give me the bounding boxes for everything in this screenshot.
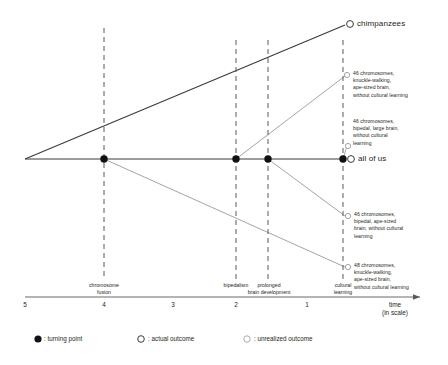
axis-tick-1: 1 [297, 301, 317, 308]
outcome-label-unrealized-bipedal-apesized: 46 chromosomes, bipedal, ape-sized brain… [354, 211, 446, 240]
turning-point-cultural-learning [339, 155, 346, 162]
turning-point-bipedalism [232, 155, 239, 162]
axis-tick-5: 5 [15, 301, 35, 308]
outcome-marker-unrealized-bipedal-apesized [345, 213, 350, 218]
turning-point-prolonged-brain-development [264, 155, 271, 162]
legend-label-turning-point: : turning point [44, 335, 82, 342]
legend-marker-actual-outcome [138, 336, 145, 343]
event-label-cultural-learning: cultural learning [320, 282, 366, 295]
outcome-marker-unrealized-large-brain [345, 143, 350, 148]
axis-tick-2: 2 [226, 301, 246, 308]
branch-line-bipedal-apesized [268, 159, 345, 216]
x-axis-arrow-icon [413, 294, 420, 300]
outcome-label-all-of-us: all of us [358, 154, 386, 163]
outcome-label-chimpanzees: chimpanzees [357, 19, 405, 28]
outcome-label-unrealized-48-chromosomes: 48 chromosomes, knuckle-walking, ape-siz… [354, 262, 448, 291]
outcome-label-unrealized-knuckle-walking-top: 46 chromosomes, knuckle-walking, ape-siz… [353, 70, 445, 99]
legend-label-unrealized-outcome: : unrealized outcome [254, 335, 312, 342]
event-label-chromosome-fusion: chromosome fusion [64, 282, 144, 295]
branch-line-knuckle-walking-top [236, 76, 345, 159]
evolution-timeline-figure: chimpanzees 46 chromosomes, knuckle-walk… [0, 0, 448, 365]
outcome-marker-all-of-us [348, 156, 355, 163]
axis-tick-4: 4 [94, 301, 114, 308]
outcome-marker-unrealized-48-chromosomes [345, 264, 350, 269]
event-label-prolonged-brain-development: prolonged brain development [238, 282, 300, 295]
outcome-marker-unrealized-knuckle-walking-top [344, 72, 349, 77]
chimpanzee-branch-line [25, 25, 345, 159]
outcome-marker-chimpanzees [347, 21, 354, 28]
turning-point-chromosome-fusion [100, 155, 107, 162]
axis-label-time: time (in scale) [365, 301, 425, 317]
legend-marker-turning-point [34, 335, 41, 342]
outcome-label-unrealized-large-brain: 46 chromosomes, bipedal, large brain, wi… [353, 118, 445, 147]
legend-marker-unrealized-outcome [244, 336, 250, 342]
legend-label-actual-outcome: : actual outcome [148, 335, 194, 342]
branch-line-48-chromosomes [104, 159, 345, 267]
axis-tick-3: 3 [163, 301, 183, 308]
